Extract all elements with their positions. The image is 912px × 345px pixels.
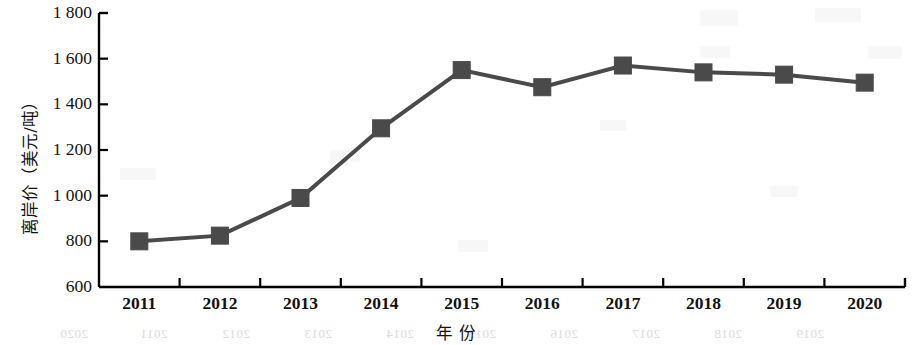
- x-tick-label: 2013: [266, 293, 336, 314]
- x-tick-label: 2012: [185, 293, 255, 314]
- x-tick-label: 2020: [830, 293, 900, 314]
- x-tick-label: 2017: [588, 293, 658, 314]
- y-axis-title: 离岸价（美元/吨）: [17, 39, 41, 289]
- x-tick-label: 2011: [104, 293, 174, 314]
- x-tick-label: 2018: [669, 293, 739, 314]
- x-tick-label: 2019: [749, 293, 819, 314]
- x-tick-label: 2014: [346, 293, 416, 314]
- x-axis-tick-labels: 2011201220132014201520162017201820192020: [0, 0, 912, 345]
- chart-container: 2020 2011 2012 2013 2014 2015 2016 2017 …: [0, 0, 912, 345]
- x-tick-label: 2015: [427, 293, 497, 314]
- x-tick-label: 2016: [507, 293, 577, 314]
- x-axis-title: 年 份: [0, 320, 912, 344]
